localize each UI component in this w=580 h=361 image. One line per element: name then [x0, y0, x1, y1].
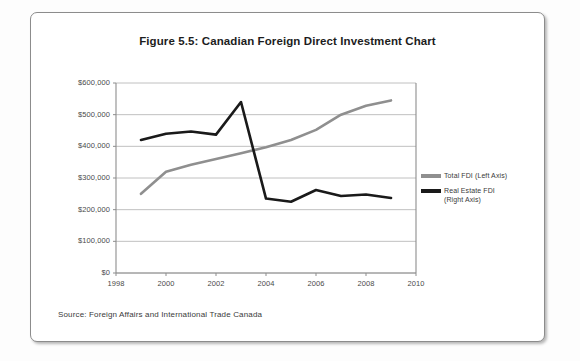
- chart-x-tick-label: 2010: [399, 279, 433, 288]
- chart-y-tick-label: $400,000: [58, 141, 110, 150]
- chart-x-tick-label: 2000: [149, 279, 183, 288]
- legend-item: Real Estate FDI (Right Axis): [421, 186, 541, 204]
- chart-y-tick-label: $500,000: [58, 110, 110, 119]
- chart-y-tick-label: $200,000: [58, 205, 110, 214]
- chart-y-tick-label: $100,000: [58, 236, 110, 245]
- source-note: Source: Foreign Affairs and Internationa…: [58, 310, 262, 319]
- chart-x-tick-label: 1998: [99, 279, 133, 288]
- chart-legend: Total FDI (Left Axis)Real Estate FDI (Ri…: [421, 171, 541, 211]
- chart-series-line-real-estate-fdi: [141, 102, 391, 202]
- page-background: Figure 5.5: Canadian Foreign Direct Inve…: [0, 0, 580, 361]
- chart-x-tick-label: 2008: [349, 279, 383, 288]
- legend-swatch-real-estate-fdi: [421, 189, 441, 193]
- legend-item-label: Total FDI (Left Axis): [444, 171, 507, 180]
- chart-y-tick-label: $0: [58, 268, 110, 277]
- chart-x-tick-label: 2006: [299, 279, 333, 288]
- legend-swatch-total-fdi: [421, 174, 441, 178]
- document-frame: Figure 5.5: Canadian Foreign Direct Inve…: [30, 12, 545, 342]
- chart-y-tick-label: $600,000: [58, 78, 110, 87]
- legend-item-label: Real Estate FDI (Right Axis): [444, 186, 495, 204]
- chart-y-tick-label: $300,000: [58, 173, 110, 182]
- chart-x-tick-label: 2002: [199, 279, 233, 288]
- chart-x-tick-label: 2004: [249, 279, 283, 288]
- legend-item: Total FDI (Left Axis): [421, 171, 541, 180]
